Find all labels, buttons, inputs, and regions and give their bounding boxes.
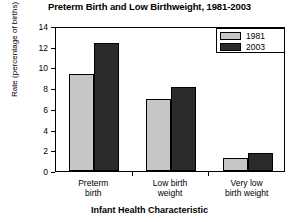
- legend: 1981 2003: [216, 28, 285, 53]
- legend-label-2003: 2003: [246, 43, 265, 52]
- bar-2003-1: [171, 87, 196, 171]
- legend-swatch-icon-2003: [220, 43, 241, 51]
- y-tick-label: 6: [8, 105, 48, 115]
- y-tick-label: 14: [8, 22, 48, 32]
- legend-item-2003: 2003: [220, 42, 284, 52]
- x-tick-label-line: Very low: [207, 178, 287, 188]
- y-tick-label: 2: [8, 146, 48, 156]
- y-tick-label: 10: [8, 63, 48, 73]
- y-axis-title: Rate (percentage of births): [10, 0, 19, 120]
- x-tick-mark: [208, 172, 209, 176]
- x-tick-label-line: birth: [53, 188, 133, 198]
- y-tick-mark: [51, 172, 55, 173]
- x-tick-label-line: weight: [130, 188, 210, 198]
- x-tick-label: Very lowbirth weight: [207, 178, 287, 198]
- bar-chart: Preterm Birth and Low Birthweight, 1981-…: [0, 0, 299, 222]
- x-tick-label: Pretermbirth: [53, 178, 133, 198]
- y-tick-label: 0: [8, 167, 48, 177]
- x-tick-label-line: Low birth: [130, 178, 210, 188]
- bar-1981-2: [223, 158, 248, 171]
- y-tick-label: 12: [8, 43, 48, 53]
- bar-1981-0: [69, 74, 94, 171]
- legend-item-1981: 1981: [220, 31, 284, 41]
- x-tick-label: Low birthweight: [130, 178, 210, 198]
- bar-2003-0: [94, 43, 119, 171]
- x-tick-mark: [132, 172, 133, 176]
- y-tick-label: 8: [8, 84, 48, 94]
- legend-swatch-icon-1981: [220, 32, 241, 40]
- x-axis-title: Infant Health Characteristic: [0, 205, 299, 215]
- bar-2003-2: [248, 153, 273, 171]
- x-tick-label-line: Preterm: [53, 178, 133, 188]
- chart-title: Preterm Birth and Low Birthweight, 1981-…: [0, 1, 299, 12]
- bar-1981-1: [146, 99, 171, 172]
- y-tick-label: 4: [8, 126, 48, 136]
- legend-label-1981: 1981: [246, 32, 265, 41]
- x-tick-label-line: birth weight: [207, 188, 287, 198]
